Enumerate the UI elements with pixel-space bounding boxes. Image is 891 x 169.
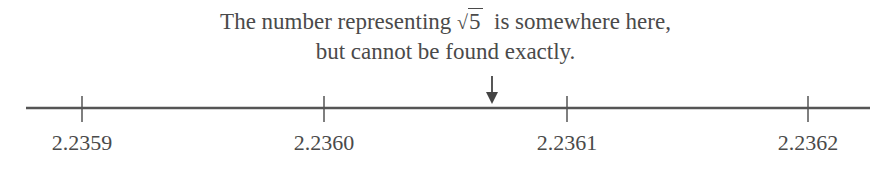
tick-label: 2.2359: [52, 130, 113, 156]
number-line-diagram: [0, 0, 891, 169]
tick-label: 2.2360: [294, 130, 355, 156]
down-arrow-icon: [486, 76, 498, 104]
tick-label: 2.2362: [778, 130, 839, 156]
tick-label: 2.2361: [537, 130, 598, 156]
